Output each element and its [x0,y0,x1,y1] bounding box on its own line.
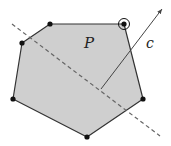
vertex-dot [10,96,15,101]
vertex-dot [47,21,52,26]
diagram-canvas: P c [0,0,171,146]
polygon-label: P [84,36,94,51]
vertex-dot [84,134,89,139]
polygon-p [13,24,143,137]
vertex-dot [19,40,24,45]
vector-label: c [146,36,154,50]
polygon-diagram [0,0,171,146]
vertex-dot [140,96,145,101]
vertex-dot [121,21,126,26]
